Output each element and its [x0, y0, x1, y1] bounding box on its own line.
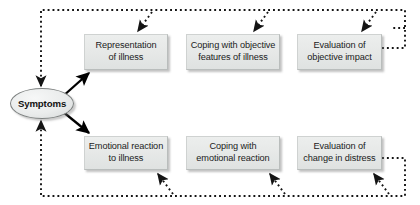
dotted-arrow-bottom-bus-to-coping-emotional: [270, 174, 285, 194]
node-coping-objective-features-label: Coping with objective features of illnes…: [188, 40, 279, 63]
dotted-arrow-top-bus-to-coping-objective: [254, 12, 268, 31]
node-coping-emotional-reaction[interactable]: Coping with emotional reaction: [186, 136, 280, 170]
node-representation-of-illness[interactable]: Representation of illness: [84, 34, 168, 70]
node-evaluation-change-in-distress[interactable]: Evaluation of change in distress: [297, 136, 382, 170]
node-representation-of-illness-label: Representation of illness: [93, 40, 160, 63]
diagram-canvas: Symptoms Representation of illness Copin…: [0, 0, 420, 205]
node-evaluation-change-in-distress-label: Evaluation of change in distress: [300, 141, 378, 164]
node-evaluation-objective-impact-label: Evaluation of objective impact: [304, 40, 374, 63]
solid-arrow-symptoms-to-emotional-reaction: [62, 111, 89, 133]
node-symptoms[interactable]: Symptoms: [10, 88, 74, 119]
node-emotional-reaction-to-illness[interactable]: Emotional reaction to illness: [84, 136, 168, 170]
node-symptoms-label: Symptoms: [18, 98, 66, 109]
dotted-arrow-bottom-bus-to-evaluation-change: [374, 174, 389, 194]
dotted-arrow-bottom-bus-to-emotional-reaction: [158, 174, 173, 194]
node-coping-objective-features[interactable]: Coping with objective features of illnes…: [186, 34, 280, 70]
dotted-arrow-top-bus-to-evaluation-impact: [362, 12, 376, 31]
dotted-arrow-top-bus-to-representation: [138, 12, 152, 31]
node-coping-emotional-reaction-label: Coping with emotional reaction: [193, 141, 272, 164]
node-emotional-reaction-to-illness-label: Emotional reaction to illness: [86, 141, 166, 164]
node-evaluation-objective-impact[interactable]: Evaluation of objective impact: [297, 34, 382, 70]
